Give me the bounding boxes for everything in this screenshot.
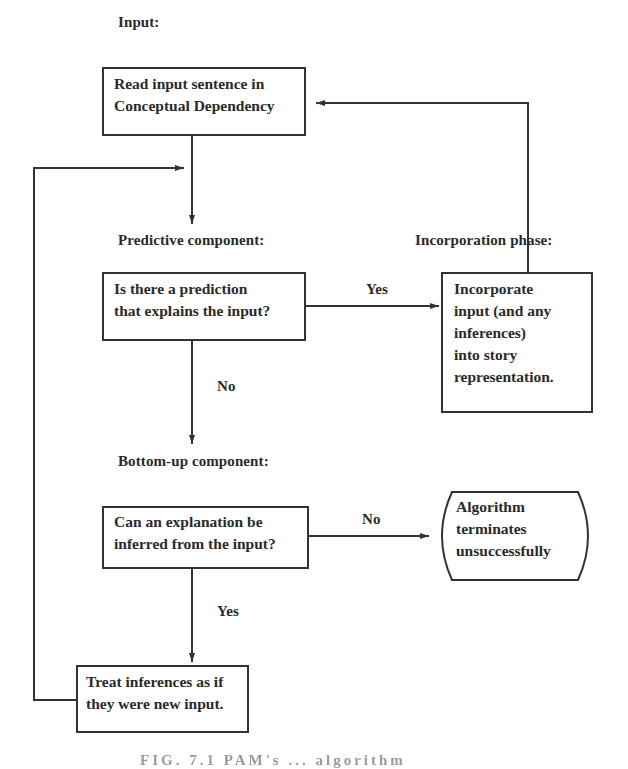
node-text: unsuccessfully	[456, 540, 551, 562]
node-text: they were new input.	[86, 693, 241, 715]
node-terminate: Algorithm terminates unsuccessfully	[456, 496, 551, 562]
edge-label-explanation-no: No	[362, 511, 381, 528]
node-explanation-check: Can an explanation be inferred from the …	[102, 506, 309, 569]
node-text: that explains the input?	[114, 300, 298, 322]
edge-label-prediction-no: No	[217, 378, 236, 395]
label-bottom-up: Bottom-up component:	[118, 453, 269, 470]
edge-label-prediction-yes: Yes	[366, 281, 388, 298]
node-text: Can an explanation be	[114, 511, 301, 533]
node-text: terminates	[456, 518, 551, 540]
label-incorporation: Incorporation phase:	[415, 232, 552, 249]
edge-label-explanation-yes: Yes	[217, 603, 239, 620]
node-text: Conceptual Dependency	[114, 95, 298, 117]
node-prediction-check: Is there a prediction that explains the …	[102, 272, 306, 341]
label-input: Input:	[118, 14, 159, 31]
node-text: input (and any	[454, 300, 585, 322]
node-text: inferences)	[454, 322, 585, 344]
node-text: Is there a prediction	[114, 278, 298, 300]
node-treat-inferences: Treat inferences as if they were new inp…	[76, 665, 249, 733]
label-predictive: Predictive component:	[118, 232, 264, 249]
figure-caption: FIG. 7.1 PAM's ... algorithm	[140, 752, 406, 769]
node-text: representation.	[454, 366, 585, 388]
node-text: Read input sentence in	[114, 73, 298, 95]
node-read-input: Read input sentence in Conceptual Depend…	[102, 67, 306, 136]
node-incorporate: Incorporate input (and any inferences) i…	[441, 272, 593, 413]
node-text: inferred from the input?	[114, 533, 301, 555]
node-text: Incorporate	[454, 278, 585, 300]
node-text: Treat inferences as if	[86, 671, 241, 693]
node-text: Algorithm	[456, 496, 551, 518]
node-text: into story	[454, 344, 585, 366]
